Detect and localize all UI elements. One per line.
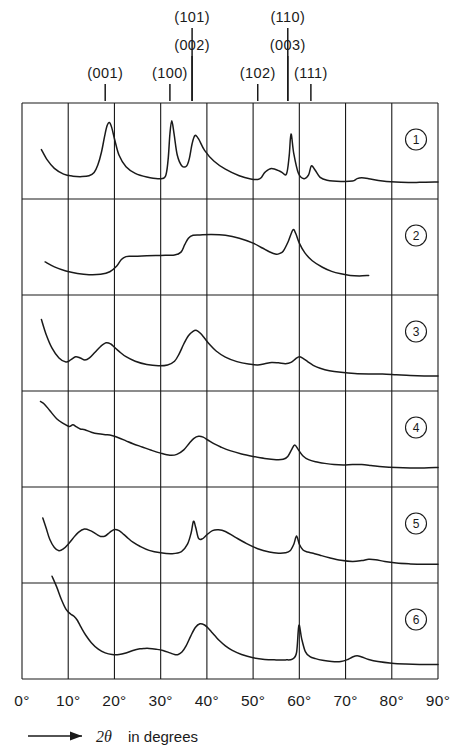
x-axis-tick-label: 50°	[241, 692, 265, 709]
x-axis-tick-label: 70°	[333, 692, 357, 709]
panel-number-label: 1	[413, 133, 420, 147]
xrd-figure: (001)(100)(101)(002)(102)(110)(003)(111)…	[0, 0, 474, 755]
axis-caption-theta: 2θ	[96, 728, 112, 745]
x-axis-tick-label: 10°	[56, 692, 80, 709]
hkl-index-label: (102)	[240, 65, 276, 81]
x-axis-tick-label: 40°	[195, 692, 219, 709]
panel-number-label: 6	[413, 613, 420, 627]
hkl-index-label: (101)	[174, 9, 210, 25]
panel-number-label: 5	[413, 517, 420, 531]
hkl-index-label: (111)	[294, 65, 328, 81]
panel-number-label: 2	[413, 229, 420, 243]
x-axis-tick-label: 80°	[380, 692, 404, 709]
x-axis-tick-label: 60°	[287, 692, 311, 709]
x-axis-tick-label: 90°	[426, 692, 450, 709]
x-axis-tick-label: 30°	[148, 692, 172, 709]
hkl-index-label: (110)	[270, 9, 305, 25]
x-axis-tick-label: 0°	[14, 692, 29, 709]
panel-number-label: 4	[413, 421, 420, 435]
panel-number-label: 3	[413, 325, 420, 339]
figure-background	[0, 0, 474, 755]
hkl-index-label: (001)	[87, 65, 123, 81]
axis-caption-text: in degrees	[128, 728, 198, 745]
x-axis-tick-label: 20°	[102, 692, 126, 709]
hkl-index-label: (100)	[152, 65, 188, 81]
xrd-figure-svg: (001)(100)(101)(002)(102)(110)(003)(111)…	[0, 0, 474, 755]
